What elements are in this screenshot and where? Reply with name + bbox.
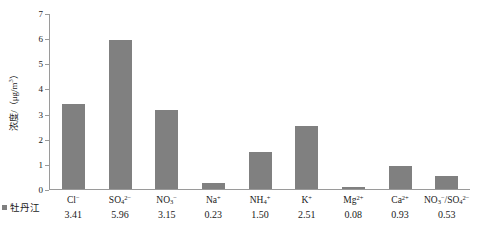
y-tick-label: 5 xyxy=(39,60,44,69)
plot-area: 01234567 xyxy=(49,14,470,190)
x-axis-label-table: Cl−SO42−NO3−Na+NH4+K+Mg2+Ca2+NO3−/SO42− … xyxy=(49,191,470,221)
bar xyxy=(295,126,318,189)
x-axis-value: 0.53 xyxy=(423,208,470,221)
y-tick-mark xyxy=(45,140,49,141)
x-axis-value-row: 3.415.963.150.231.502.510.080.930.53 xyxy=(50,208,470,221)
y-tick-label: 3 xyxy=(39,110,44,119)
y-tick-label: 6 xyxy=(39,35,44,44)
bar xyxy=(435,176,458,189)
legend-swatch-icon xyxy=(2,205,7,210)
bar xyxy=(249,152,272,190)
y-axis-title-tail: ） xyxy=(9,70,19,79)
x-axis-label: NO3−/SO42− xyxy=(423,191,470,208)
bar-cell xyxy=(283,14,330,189)
bar-series xyxy=(50,14,470,189)
bar xyxy=(155,110,178,189)
x-axis-label: SO42− xyxy=(97,191,144,208)
y-tick-mark xyxy=(45,14,49,15)
bar xyxy=(62,104,85,189)
y-tick-label: 1 xyxy=(39,160,44,169)
bar-cell xyxy=(423,14,470,189)
bar xyxy=(389,166,412,189)
x-axis-value: 0.23 xyxy=(190,208,237,221)
bar-cell xyxy=(377,14,424,189)
y-axis-title-main: 浓度/（μg/m xyxy=(9,82,19,130)
bar xyxy=(342,187,365,189)
bar xyxy=(109,40,132,189)
bar-cell xyxy=(237,14,284,189)
x-axis-name-row: Cl−SO42−NO3−Na+NH4+K+Mg2+Ca2+NO3−/SO42− xyxy=(50,191,470,208)
y-tick-label: 4 xyxy=(39,85,44,94)
y-tick-mark xyxy=(45,39,49,40)
bar xyxy=(202,183,225,189)
y-tick-label: 2 xyxy=(39,135,44,144)
x-axis-value: 3.15 xyxy=(143,208,190,221)
x-axis-value: 3.41 xyxy=(50,208,97,221)
y-tick-mark xyxy=(45,64,49,65)
chart-page: 浓度/（μg/m3） 01234567 牡丹江 Cl−SO42−NO3−Na+N… xyxy=(0,0,499,240)
legend-label: 牡丹江 xyxy=(10,200,40,214)
x-axis-label: Na+ xyxy=(190,191,237,208)
y-tick-label: 0 xyxy=(39,186,44,195)
y-axis-title: 浓度/（μg/m3） xyxy=(4,40,22,160)
bar-cell xyxy=(190,14,237,189)
x-axis-value: 2.51 xyxy=(283,208,330,221)
bar-cell xyxy=(97,14,144,189)
figure-caption xyxy=(120,229,380,238)
bar-cell xyxy=(50,14,97,189)
x-axis-label: K+ xyxy=(283,191,330,208)
x-axis-label: Cl− xyxy=(50,191,97,208)
x-axis-label: Ca2+ xyxy=(377,191,424,208)
y-tick-label: 7 xyxy=(39,10,44,19)
x-axis-value: 0.93 xyxy=(377,208,424,221)
x-axis-line xyxy=(49,189,470,190)
legend: 牡丹江 xyxy=(2,200,40,214)
y-tick-mark xyxy=(45,115,49,116)
x-axis-label: NO3− xyxy=(143,191,190,208)
x-axis-label: Mg2+ xyxy=(330,191,377,208)
y-tick-mark xyxy=(45,89,49,90)
x-axis-label: NH4+ xyxy=(237,191,284,208)
bar-cell xyxy=(330,14,377,189)
x-axis-value: 5.96 xyxy=(97,208,144,221)
bar-cell xyxy=(143,14,190,189)
y-tick-mark xyxy=(45,165,49,166)
x-axis-value: 1.50 xyxy=(237,208,284,221)
x-axis-value: 0.08 xyxy=(330,208,377,221)
